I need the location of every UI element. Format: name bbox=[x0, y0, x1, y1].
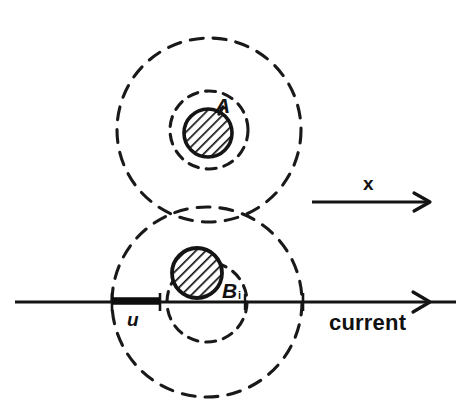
physics-diagram-figure: A x u current bbox=[0, 0, 460, 412]
particle-b-subscript-label: i bbox=[238, 289, 241, 301]
hatched-disc-b bbox=[168, 244, 228, 304]
particle-a-label: A bbox=[214, 94, 230, 117]
x-direction-arrow: x bbox=[312, 173, 430, 211]
upper-group-A: A bbox=[117, 38, 301, 222]
current-label: current bbox=[329, 310, 407, 335]
x-axis-label: x bbox=[363, 173, 374, 194]
displacement-label: u bbox=[127, 309, 139, 330]
diagram-canvas: A x u current bbox=[0, 0, 460, 412]
particle-b-label: B bbox=[222, 279, 237, 302]
